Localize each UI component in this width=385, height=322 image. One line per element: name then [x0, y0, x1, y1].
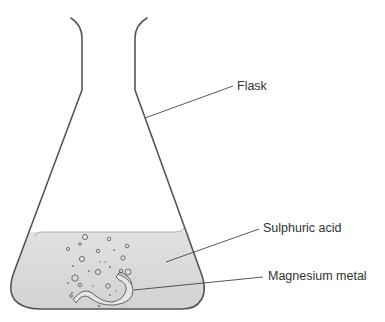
flask-label: Flask [237, 80, 267, 93]
sulphuric-acid-label: Sulphuric acid [263, 222, 342, 235]
magnesium-metal-label: Magnesium metal [268, 270, 367, 283]
sulphuric-acid-liquid [0, 226, 230, 322]
flask-leader-line [145, 86, 233, 118]
